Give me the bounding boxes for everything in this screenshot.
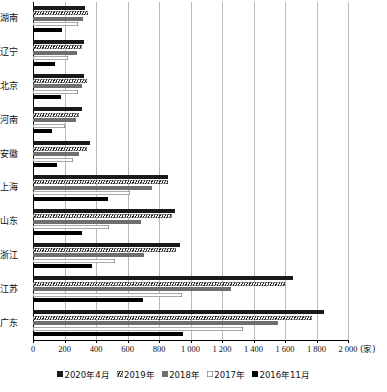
legend-label: 2016年11月 (259, 368, 309, 380)
bar-group (0, 209, 387, 235)
tick-0 (33, 340, 34, 343)
bar (33, 62, 55, 66)
bar (33, 141, 90, 145)
bar (33, 74, 84, 78)
bar-group (0, 141, 387, 167)
category-label: 辽宁 (0, 47, 30, 57)
bar-group (0, 40, 387, 66)
legend-swatch-icon (162, 371, 168, 377)
bar (33, 316, 312, 320)
category-label: 上海 (0, 182, 30, 192)
bar (33, 220, 141, 224)
legend-label: 2020年4月 (65, 368, 110, 380)
tick-1600 (285, 340, 286, 343)
bar (33, 147, 87, 151)
x-tick-label: 1 400 (244, 344, 263, 354)
x-tick-label: 1 600 (275, 344, 294, 354)
category-label: 江苏 (0, 284, 30, 294)
legend-item[interactable]: 2019年 (117, 368, 155, 380)
legend-item[interactable]: 2018年 (162, 368, 200, 380)
bar-group (0, 243, 387, 269)
bar (33, 298, 143, 302)
bar (33, 209, 175, 213)
x-tick-label: 1 200 (212, 344, 231, 354)
bar (33, 11, 88, 15)
bar (33, 158, 73, 162)
bar (33, 107, 82, 111)
legend-item[interactable]: 2017年 (207, 368, 245, 380)
x-tick-label: 0 (31, 344, 35, 354)
x-axis-unit-label: (家) (360, 344, 376, 354)
legend-swatch-icon (57, 371, 63, 377)
legend-swatch-icon (207, 371, 213, 377)
tick-600 (128, 340, 129, 343)
bar (33, 287, 231, 291)
x-tick-label: 2 000 (338, 344, 357, 354)
bar (33, 259, 115, 263)
category-label: 浙江 (0, 250, 30, 260)
bar-group (0, 74, 387, 100)
bar (33, 186, 152, 190)
category-label: 北京 (0, 81, 30, 91)
bar (33, 180, 168, 184)
bar (33, 90, 78, 94)
bar (33, 51, 77, 55)
x-tick-label: 600 (121, 344, 134, 354)
legend-item[interactable]: 2020年4月 (57, 368, 110, 380)
tick-1400 (254, 340, 255, 343)
bar (33, 84, 82, 88)
category-label: 山东 (0, 216, 30, 226)
bar-group (0, 107, 387, 133)
bar (33, 22, 78, 26)
bar (33, 310, 324, 314)
x-tick-label: 1 000 (181, 344, 200, 354)
bar-group (0, 175, 387, 201)
bar (33, 40, 84, 44)
bar (33, 264, 92, 268)
bar (33, 79, 87, 83)
legend-item[interactable]: 2016年11月 (252, 368, 310, 380)
bar (33, 124, 65, 128)
bar (33, 293, 182, 297)
x-tick-label: 1 800 (307, 344, 326, 354)
bar (33, 243, 180, 247)
bar (33, 95, 61, 99)
tick-1000 (191, 340, 192, 343)
category-label: 广东 (0, 318, 30, 328)
bar (33, 175, 168, 179)
bar-group (0, 6, 387, 32)
legend-swatch-icon (117, 371, 123, 377)
bar (33, 118, 76, 122)
bar (33, 28, 62, 32)
bar (33, 282, 285, 286)
bar (33, 276, 293, 280)
bar (33, 45, 82, 49)
tick-1200 (222, 340, 223, 343)
bar (33, 6, 85, 10)
tick-800 (159, 340, 160, 343)
bar-chart: 02004006008001 0001 2001 4001 6001 8002 … (0, 0, 387, 392)
bar (33, 163, 57, 167)
tick-400 (96, 340, 97, 343)
x-tick-label: 200 (58, 344, 71, 354)
category-label: 湖南 (0, 13, 30, 23)
bar (33, 113, 79, 117)
bar (33, 253, 144, 257)
bar-group (0, 276, 387, 302)
bar (33, 191, 130, 195)
x-tick-label: 400 (90, 344, 103, 354)
legend-swatch-icon (252, 371, 258, 377)
bar (33, 214, 172, 218)
bar (33, 56, 68, 60)
legend-label: 2019年 (124, 368, 155, 380)
bar (33, 152, 79, 156)
category-label: 安徽 (0, 149, 30, 159)
tick-200 (65, 340, 66, 343)
bar (33, 129, 52, 133)
bar (33, 327, 243, 331)
x-tick-label: 800 (153, 344, 166, 354)
bar (33, 225, 109, 229)
bar (33, 197, 108, 201)
bar (33, 248, 176, 252)
tick-1800 (317, 340, 318, 343)
